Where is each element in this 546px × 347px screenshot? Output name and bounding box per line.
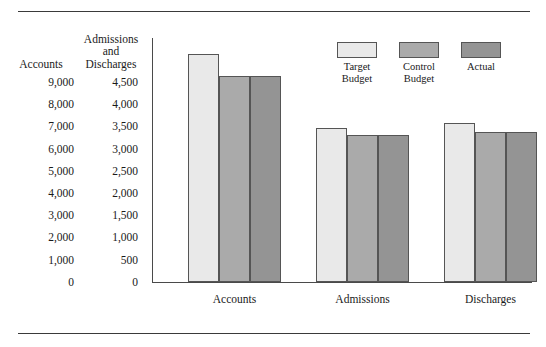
y-tick-row: 9,0004,500 — [0, 75, 146, 89]
bar-accounts-actual — [250, 76, 281, 282]
legend-swatch — [399, 42, 439, 58]
y-tick-label-accounts: 3,000 — [8, 208, 74, 222]
y-axis-line — [152, 38, 153, 283]
legend-label: Control Budget — [392, 61, 446, 84]
bar-admissions-target-budget — [316, 128, 347, 282]
y-tick-row: 8,0004,000 — [0, 97, 146, 111]
y-tick-label-admissions: 3,500 — [76, 119, 138, 133]
y-tick-label-admissions: 3,000 — [76, 142, 138, 156]
y-tick-label-admissions: 4,000 — [76, 97, 138, 111]
y-tick-row: 1,000500 — [0, 253, 146, 267]
y-tick-label-accounts: 6,000 — [8, 142, 74, 156]
y-tick-label-admissions: 2,500 — [76, 164, 138, 178]
y-tick-label-admissions: 4,500 — [76, 75, 138, 89]
x-axis-line — [152, 282, 532, 283]
y-tick-row: 5,0002,500 — [0, 164, 146, 178]
bar-admissions-actual — [378, 135, 409, 282]
figure: Accounts Admissions and Discharges 9,000… — [0, 0, 546, 347]
bar-discharges-control-budget — [475, 132, 506, 282]
legend-swatch — [461, 42, 501, 58]
y-tick-label-accounts: 1,000 — [8, 253, 74, 267]
y-tick-label-accounts: 4,000 — [8, 186, 74, 200]
y-tick-label-accounts: 5,000 — [8, 164, 74, 178]
y-tick-row: 2,0001,000 — [0, 230, 146, 244]
y-tick-row: 00 — [0, 275, 146, 289]
y-tick-row: 7,0003,500 — [0, 119, 146, 133]
bar-accounts-target-budget — [188, 54, 219, 282]
bar-discharges-actual — [506, 132, 537, 282]
bar-accounts-control-budget — [219, 76, 250, 282]
y-axis-tick-columns: 9,0004,5008,0004,0007,0003,5006,0003,000… — [0, 0, 146, 347]
x-axis-label-discharges: Discharges — [441, 293, 541, 305]
y-tick-row: 3,0001,500 — [0, 208, 146, 222]
y-tick-label-accounts: 9,000 — [8, 75, 74, 89]
y-tick-row: 4,0002,000 — [0, 186, 146, 200]
y-tick-label-admissions: 1,500 — [76, 208, 138, 222]
y-tick-label-admissions: 500 — [76, 253, 138, 267]
y-tick-label-accounts: 0 — [8, 275, 74, 289]
y-tick-label-accounts: 7,000 — [8, 119, 74, 133]
y-tick-label-accounts: 8,000 — [8, 97, 74, 111]
y-tick-label-accounts: 2,000 — [8, 230, 74, 244]
y-tick-label-admissions: 2,000 — [76, 186, 138, 200]
legend-label: Actual — [454, 61, 508, 73]
y-tick-row: 6,0003,000 — [0, 142, 146, 156]
chart-legend: Target BudgetControl BudgetActual — [330, 42, 510, 90]
x-axis-label-accounts: Accounts — [185, 293, 285, 305]
legend-item-actual: Actual — [454, 42, 508, 73]
legend-item-control-budget: Control Budget — [392, 42, 446, 84]
bar-admissions-control-budget — [347, 135, 378, 282]
legend-swatch — [337, 42, 377, 58]
y-tick-label-admissions: 1,000 — [76, 230, 138, 244]
y-tick-label-admissions: 0 — [76, 275, 138, 289]
legend-item-target-budget: Target Budget — [330, 42, 384, 84]
x-axis-label-admissions: Admissions — [313, 293, 413, 305]
legend-label: Target Budget — [330, 61, 384, 84]
bar-discharges-target-budget — [444, 123, 475, 282]
